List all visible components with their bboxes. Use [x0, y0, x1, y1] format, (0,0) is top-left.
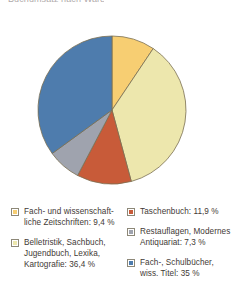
- legend-column-left: Fach- und wissenschaft-liche Zeitschrift…: [11, 206, 123, 279]
- legend-line-2: Antiquariat: 7,3 %: [140, 238, 206, 247]
- legend-item-belletristik[interactable]: Belletristik, Sachbuch,Jugendbuch, Lexik…: [11, 237, 123, 270]
- chart-legend: Fach- und wissenschaft-liche Zeitschrift…: [0, 206, 236, 294]
- legend-label-zeitschriften: Fach- und wissenschaft-liche Zeitschrift…: [24, 206, 115, 228]
- legend-label-belletristik: Belletristik, Sachbuch,Jugendbuch, Lexik…: [24, 237, 106, 270]
- legend-line-2: Jugendbuch, Lexika,: [24, 249, 100, 258]
- legend-label-taschenbuch: Taschenbuch: 11,9 %: [140, 206, 219, 217]
- legend-swatch-taschenbuch: [127, 208, 135, 216]
- legend-item-zeitschriften[interactable]: Fach- und wissenschaft-liche Zeitschrift…: [11, 206, 123, 228]
- legend-swatch-fachbuecher: [127, 259, 135, 267]
- legend-line-1: Belletristik, Sachbuch,: [24, 238, 106, 247]
- legend-item-fachbuecher[interactable]: Fach-, Schulbücher,wiss. Titel: 35 %: [127, 257, 233, 279]
- legend-line-3: Kartografie: 36,4 %: [24, 260, 95, 269]
- legend-line-1: Taschenbuch: 11,9 %: [140, 207, 219, 216]
- legend-item-restauflagen[interactable]: Restauflagen, ModernesAntiquariat: 7,3 %: [127, 226, 233, 248]
- legend-line-2: wiss. Titel: 35 %: [140, 269, 200, 278]
- figure-caption-text: Buchumsatz nach Warengruppen im Jahr 200…: [8, 0, 104, 4]
- legend-swatch-restauflagen: [127, 228, 135, 236]
- pie-chart: [36, 24, 188, 196]
- figure-caption-cutoff: Buchumsatz nach Warengruppen im Jahr 200…: [8, 0, 104, 4]
- legend-column-right: Taschenbuch: 11,9 % Restauflagen, Modern…: [127, 206, 233, 288]
- pie-slices: [38, 36, 186, 184]
- legend-swatch-zeitschriften: [11, 208, 19, 216]
- legend-swatch-belletristik: [11, 239, 19, 247]
- legend-line-2: liche Zeitschriften: 9,4 %: [24, 218, 115, 227]
- legend-label-fachbuecher: Fach-, Schulbücher,wiss. Titel: 35 %: [140, 257, 214, 279]
- legend-item-taschenbuch[interactable]: Taschenbuch: 11,9 %: [127, 206, 233, 217]
- chart-figure: Buchumsatz nach Warengruppen im Jahr 200…: [0, 0, 236, 296]
- pie-chart-svg: [36, 24, 188, 196]
- legend-label-restauflagen: Restauflagen, ModernesAntiquariat: 7,3 %: [140, 226, 230, 248]
- legend-line-1: Fach- und wissenschaft-: [24, 207, 114, 216]
- legend-line-1: Fach-, Schulbücher,: [140, 258, 214, 267]
- legend-line-1: Restauflagen, Modernes: [140, 227, 230, 236]
